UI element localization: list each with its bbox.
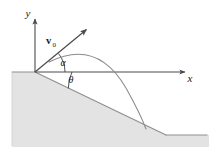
- theta-angle-label: θ: [69, 74, 74, 85]
- diagram-canvas: x y α θ v 0: [0, 0, 209, 157]
- velocity-subscript: 0: [53, 41, 57, 49]
- x-axis-label: x: [187, 72, 193, 84]
- labels-group: x y α θ v 0: [25, 7, 193, 85]
- initial-velocity-label: v 0: [46, 35, 57, 49]
- ground-fill-region: [12, 72, 209, 147]
- alpha-angle-label: α: [60, 57, 66, 68]
- velocity-symbol: v: [46, 35, 52, 46]
- y-axis-label: y: [25, 7, 31, 19]
- terrain-group: [12, 72, 209, 147]
- axes-group: [35, 19, 185, 72]
- physics-figure-projectile-on-incline: x y α θ v 0: [0, 0, 209, 157]
